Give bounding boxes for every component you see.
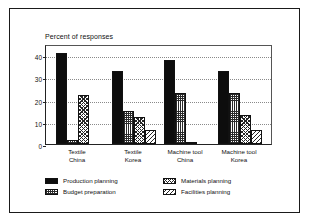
legend-swatch-icon bbox=[163, 178, 176, 184]
x-category-label: Machine toolKorea bbox=[209, 148, 269, 163]
x-category-line: China bbox=[155, 156, 215, 164]
bar bbox=[229, 93, 240, 144]
bar-group bbox=[164, 46, 208, 144]
legend-entry: Materials planning bbox=[163, 177, 275, 184]
x-category-label: Machine toolChina bbox=[155, 148, 215, 163]
bar bbox=[175, 93, 186, 144]
bar bbox=[123, 111, 134, 144]
legend-entry: Budget preparation bbox=[45, 188, 157, 195]
legend-swatch-icon bbox=[163, 189, 176, 195]
y-tick-label: 10 bbox=[35, 120, 42, 127]
bar bbox=[164, 60, 175, 144]
bar bbox=[240, 115, 251, 144]
y-tick-label: 30 bbox=[35, 76, 42, 83]
chart-title: Percent of responses bbox=[45, 33, 113, 40]
legend-entry: Facilities planning bbox=[163, 188, 275, 195]
y-tick-label: 40 bbox=[35, 54, 42, 61]
x-category-line: Textile bbox=[47, 148, 107, 156]
bar bbox=[218, 71, 229, 144]
legend-label: Materials planning bbox=[181, 177, 231, 184]
bar bbox=[112, 71, 123, 144]
legend-swatch-icon bbox=[45, 189, 58, 195]
y-tick-label: 0 bbox=[38, 143, 42, 150]
x-category-label: TextileChina bbox=[47, 148, 107, 163]
x-category-line: Textile bbox=[103, 148, 163, 156]
x-category-line: China bbox=[47, 156, 107, 164]
legend-entry: Production planning bbox=[45, 177, 157, 184]
x-category-line: Korea bbox=[103, 156, 163, 164]
legend-label: Production planning bbox=[63, 177, 118, 184]
x-category-line: Korea bbox=[209, 156, 269, 164]
legend-label: Facilities planning bbox=[181, 188, 230, 195]
x-category-line: Machine tool bbox=[209, 148, 269, 156]
plot-area: 010203040 bbox=[45, 45, 272, 145]
chart-legend: Production planningMaterials planningBud… bbox=[45, 177, 275, 195]
x-category-line: Machine tool bbox=[155, 148, 215, 156]
y-tick-label: 20 bbox=[35, 98, 42, 105]
bar-group bbox=[56, 46, 100, 144]
bar bbox=[251, 130, 262, 144]
legend-label: Budget preparation bbox=[63, 188, 116, 195]
legend-swatch-icon bbox=[45, 178, 58, 184]
y-tick-mark bbox=[43, 146, 46, 147]
bar-group bbox=[218, 46, 262, 144]
bar bbox=[134, 117, 145, 144]
bars-layer bbox=[46, 46, 271, 144]
bar bbox=[186, 142, 197, 144]
x-category-label: TextileKorea bbox=[103, 148, 163, 163]
chart-figure: Percent of responses 010203040 TextileCh… bbox=[0, 0, 309, 222]
bar bbox=[78, 95, 89, 144]
bar-group bbox=[112, 46, 156, 144]
bar bbox=[145, 130, 156, 144]
bar bbox=[56, 53, 67, 144]
bar bbox=[67, 140, 78, 144]
